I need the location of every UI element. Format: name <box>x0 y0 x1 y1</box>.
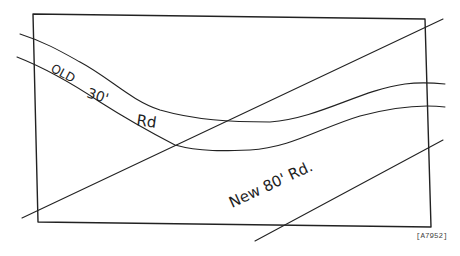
road-sketch: OLD 30' Rd New 80' Rd. [A7952] <box>0 0 460 256</box>
new-road-upper-edge <box>22 19 443 218</box>
old-road-label-old: OLD <box>49 61 78 85</box>
figure-reference: [A7952] <box>416 232 448 240</box>
old-road-label-width: 30' <box>85 85 111 107</box>
old-road-lower-edge <box>17 57 445 151</box>
old-road-label-rd: Rd <box>135 111 157 132</box>
old-road-upper-edge <box>20 34 445 122</box>
new-road-label: New 80' Rd. <box>226 157 315 211</box>
